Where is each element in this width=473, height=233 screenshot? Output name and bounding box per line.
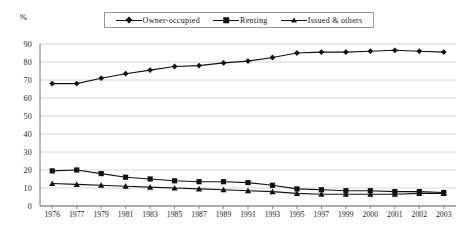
datapoint-renting-1991 [245, 180, 250, 185]
datapoint-owner-occupied-1985 [172, 64, 178, 70]
y-tick-label-30: 30 [16, 148, 32, 157]
datapoint-owner-occupied-1977 [74, 81, 80, 87]
datapoint-owner-occupied-2003 [441, 49, 447, 55]
series-line-owner-occupied [52, 50, 444, 83]
x-tick-label-1981: 1981 [118, 210, 134, 219]
y-tick-label-80: 80 [16, 58, 32, 67]
y-tick-label-0: 0 [16, 202, 32, 211]
x-tick-label-1999: 1999 [338, 210, 354, 219]
x-tick-label-1979: 1979 [93, 210, 109, 219]
datapoint-owner-occupied-1993 [270, 55, 276, 61]
x-tick-label-1987: 1987 [191, 210, 207, 219]
x-tick-label-1989: 1989 [216, 210, 232, 219]
datapoint-renting-1976 [50, 168, 55, 173]
plot-area: 0102030405060708090 19761977197919811983… [0, 0, 473, 233]
y-tick-label-70: 70 [16, 76, 32, 85]
y-tick-label-20: 20 [16, 166, 32, 175]
datapoint-renting-1979 [99, 171, 104, 176]
x-tick-label-2001: 2001 [387, 210, 403, 219]
x-tick-label-2002: 2002 [411, 210, 427, 219]
datapoint-owner-occupied-1989 [221, 60, 227, 66]
datapoint-owner-occupied-1981 [123, 71, 129, 77]
datapoint-renting-1989 [221, 179, 226, 184]
datapoint-owner-occupied-2002 [416, 48, 422, 54]
datapoint-owner-occupied-1991 [245, 58, 251, 64]
datapoint-owner-occupied-1983 [147, 67, 153, 73]
datapoint-owner-occupied-2000 [367, 48, 373, 54]
datapoint-renting-1985 [172, 178, 177, 183]
datapoint-renting-1987 [196, 179, 201, 184]
x-tick-label-1997: 1997 [314, 210, 330, 219]
datapoint-owner-occupied-2001 [392, 47, 398, 53]
datapoint-owner-occupied-1976 [49, 81, 55, 87]
x-tick-label-1977: 1977 [69, 210, 85, 219]
datapoint-owner-occupied-1987 [196, 63, 202, 69]
x-tick-label-1976: 1976 [44, 210, 60, 219]
datapoint-renting-1993 [270, 183, 275, 188]
y-tick-label-60: 60 [16, 94, 32, 103]
x-tick-label-1985: 1985 [167, 210, 183, 219]
datapoint-renting-1977 [74, 167, 79, 172]
x-tick-label-1995: 1995 [289, 210, 305, 219]
plot-canvas [0, 0, 473, 233]
line-chart: % Owner-occupied Renting Issued & others… [0, 0, 473, 233]
datapoint-owner-occupied-1995 [294, 50, 300, 56]
datapoint-owner-occupied-1997 [319, 49, 325, 55]
y-tick-label-50: 50 [16, 112, 32, 121]
x-tick-label-2003: 2003 [436, 210, 452, 219]
x-tick-label-1983: 1983 [142, 210, 158, 219]
y-tick-label-40: 40 [16, 130, 32, 139]
y-tick-label-90: 90 [16, 40, 32, 49]
datapoint-renting-1981 [123, 175, 128, 180]
x-tick-label-2000: 2000 [363, 210, 379, 219]
y-tick-label-10: 10 [16, 184, 32, 193]
datapoint-owner-occupied-1999 [343, 49, 349, 55]
x-tick-label-1993: 1993 [265, 210, 281, 219]
x-tick-label-1991: 1991 [240, 210, 256, 219]
datapoint-renting-1983 [148, 176, 153, 181]
